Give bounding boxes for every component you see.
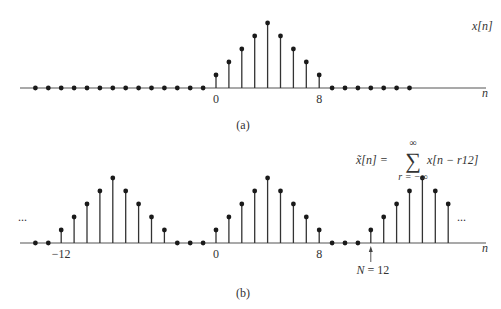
stem-point: [123, 86, 128, 91]
tick-label: −12: [52, 247, 71, 261]
stem-point: [33, 86, 38, 91]
tick-label: 8: [316, 247, 322, 261]
stem-point: [381, 215, 386, 220]
stem-point: [214, 228, 219, 233]
signal-label-x: x[n]: [471, 19, 493, 33]
stem-point: [394, 86, 399, 91]
axis-label-n-b: n: [482, 241, 488, 255]
stem-point: [252, 34, 257, 39]
stem-point: [85, 202, 90, 207]
ellipsis-left: ...: [18, 210, 27, 224]
stem-point: [72, 215, 77, 220]
stem-point: [343, 241, 348, 246]
stem-point: [291, 47, 296, 52]
stem-point: [407, 189, 412, 194]
period-label: N = 12: [355, 263, 389, 277]
stem-point: [278, 34, 283, 39]
stem-point: [227, 215, 232, 220]
stem-point: [110, 176, 115, 181]
tick-labels-b: −1208: [52, 247, 322, 261]
stem-point: [162, 228, 167, 233]
stem-point: [368, 86, 373, 91]
tick-label: 0: [213, 247, 219, 261]
up-arrow-icon: [369, 246, 373, 252]
stem-point: [136, 86, 141, 91]
stem-point: [291, 202, 296, 207]
stem-point: [123, 189, 128, 194]
stem-point: [356, 86, 361, 91]
periodic-sum-formula: x̃[n] = ∑ ∞ r = −∞ x[n − r12]: [355, 137, 479, 182]
stem-point: [136, 202, 141, 207]
sum-lower-limit: r = −∞: [398, 171, 428, 182]
stem-point: [149, 86, 154, 91]
panel-a: 08 n x[n] (a): [20, 19, 493, 132]
formula-summand: x[n − r12]: [426, 153, 479, 167]
stem-point: [46, 241, 51, 246]
stem-point: [72, 86, 77, 91]
stem-point: [265, 176, 270, 181]
stem-point: [252, 189, 257, 194]
caption-b: (b): [236, 286, 250, 300]
tick-labels-a: 08: [213, 92, 322, 106]
period-annotation: N = 12: [355, 246, 389, 277]
stem-point: [317, 228, 322, 233]
stem-point: [239, 47, 244, 52]
stem-point: [446, 202, 451, 207]
stem-point: [59, 86, 64, 91]
stem-point: [304, 60, 309, 65]
stems-b: [33, 176, 451, 246]
tick-label: 8: [316, 92, 322, 106]
stem-point: [33, 241, 38, 246]
stem-point: [98, 189, 103, 194]
stem-point: [356, 241, 361, 246]
tick-label: 0: [213, 92, 219, 106]
stem-point: [407, 86, 412, 91]
stem-point: [304, 215, 309, 220]
panel-b: −1208 n ... ... N = 12 x̃[n] = ∑ ∞ r = −…: [18, 137, 488, 300]
stem-point: [59, 228, 64, 233]
stem-point: [433, 189, 438, 194]
stem-point: [98, 86, 103, 91]
stem-point: [188, 86, 193, 91]
stem-point: [46, 86, 51, 91]
stem-point: [368, 228, 373, 233]
sum-upper-limit: ∞: [409, 137, 416, 148]
stem-point: [330, 241, 335, 246]
sum-symbol: ∑: [405, 148, 421, 173]
stem-point: [188, 241, 193, 246]
stem-point: [394, 202, 399, 207]
stem-point: [175, 241, 180, 246]
stem-point: [201, 86, 206, 91]
ellipsis-right: ...: [457, 210, 466, 224]
stem-point: [227, 60, 232, 65]
stem-point: [239, 202, 244, 207]
stem-point: [201, 241, 206, 246]
stem-point: [265, 21, 270, 26]
stem-point: [110, 86, 115, 91]
stem-point: [317, 73, 322, 78]
stem-point: [278, 189, 283, 194]
stem-point: [149, 215, 154, 220]
caption-a: (a): [236, 118, 249, 132]
figure: 08 n x[n] (a) −1208 n ... ... N = 12 x̃[…: [0, 0, 501, 309]
stem-point: [162, 86, 167, 91]
stem-point: [214, 73, 219, 78]
stem-point: [343, 86, 348, 91]
stem-point: [85, 86, 90, 91]
formula-lhs: x̃[n] =: [355, 153, 388, 167]
stem-point: [381, 86, 386, 91]
axis-label-n-a: n: [482, 86, 488, 100]
stem-point: [175, 86, 180, 91]
stem-point: [330, 86, 335, 91]
stems-a: [33, 21, 412, 91]
